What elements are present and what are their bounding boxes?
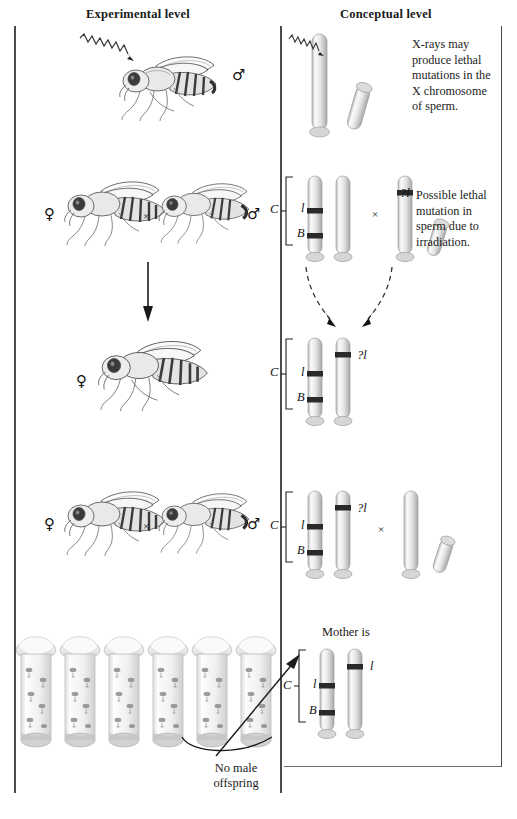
chromosome-label-c-p-cross: C — [270, 202, 278, 217]
chromosome-label-query-l-sperm: ?l — [400, 186, 410, 201]
fly-illustration-male-f1-cross — [150, 483, 260, 557]
arrow-down-to-f1 — [140, 262, 156, 324]
fly-illustration-male-p-cross — [150, 173, 260, 247]
chromosome-label-b-mother: B — [309, 703, 317, 718]
chromosome-label-l-mother-left: l — [313, 677, 316, 692]
fly-illustration-male-irradiated — [110, 48, 228, 122]
label-mother-is: Mother is — [322, 625, 370, 640]
fly-illustration-female-f1 — [88, 330, 216, 414]
chromosome-pair-mother-genotype — [308, 645, 378, 745]
right-border-rule — [501, 26, 502, 766]
bottom-border-rule — [284, 766, 502, 767]
chromosome-label-c-mother: C — [283, 678, 291, 693]
chromosome-label-l-mother-right: l — [370, 659, 373, 674]
chromosome-label-c-f1-cross: C — [270, 518, 278, 533]
chromosome-label-query-l-f1: ?l — [357, 348, 367, 363]
figure-canvas: Experimental level Conceptual level — [0, 0, 517, 819]
chromosome-pair-cib-mother — [296, 172, 366, 268]
cross-symbol-conceptual-f1: × — [378, 523, 384, 535]
sex-symbol-female-f1: ♀ — [76, 372, 87, 390]
chromosome-label-l-f1-cross: l — [301, 518, 304, 533]
chromosome-pair-f1-female — [296, 334, 366, 432]
chromosome-label-l-f1: l — [301, 365, 304, 380]
chromosome-pair-f1-cross-female — [296, 487, 366, 585]
column-header-experimental: Experimental level — [86, 7, 190, 22]
sex-symbol-male-p-generation: ♂ — [232, 66, 245, 84]
chromosome-label-l-p-cross: l — [301, 201, 304, 216]
chromosome-group-f1-male — [396, 487, 470, 585]
brace-c-inversion-f1-cross — [281, 491, 295, 563]
chromosome-label-query-l-f1-cross: ?l — [357, 501, 367, 516]
chromosome-label-b-f1-cross: B — [297, 543, 305, 558]
cross-symbol-conceptual-p: × — [372, 208, 378, 220]
xray-zigzag-arrow-conceptual — [288, 34, 328, 70]
sex-symbol-female-f1-cross: ♀ — [44, 515, 55, 533]
cross-symbol-p-generation: × — [143, 210, 149, 222]
brace-c-inversion-f1 — [281, 338, 295, 410]
sex-symbol-female-p-cross: ♀ — [44, 205, 55, 223]
column-header-conceptual: Conceptual level — [340, 7, 432, 22]
brace-c-inversion-mother — [294, 649, 308, 723]
chromosome-label-b-f1: B — [297, 390, 305, 405]
chromosome-label-b-p-cross: B — [297, 226, 305, 241]
annotation-xray-note: X-rays may produce lethal mutations in t… — [412, 37, 498, 115]
label-no-male-offspring: No male offspring — [196, 761, 276, 792]
dashed-inheritance-arrows — [292, 265, 402, 333]
cross-symbol-f1-generation: × — [143, 520, 149, 532]
annotation-lethal-note: Possible lethal mutation in sperm due to… — [416, 188, 502, 250]
brace-c-inversion-p-cross — [281, 176, 295, 246]
chromosome-label-c-f1: C — [270, 365, 278, 380]
